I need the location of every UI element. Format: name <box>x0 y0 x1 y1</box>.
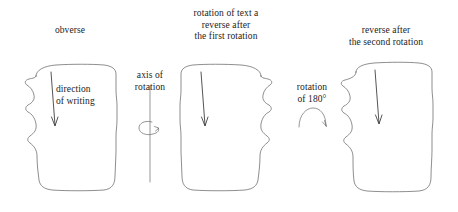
label-rotation-180: rotation of 180° <box>290 82 334 105</box>
heading-obverse: obverse <box>28 25 112 37</box>
axis-of-rotation-icon <box>139 86 159 182</box>
figure-canvas: obverse rotation of text a reverse after… <box>0 0 458 212</box>
heading-first-rotation: rotation of text a reverse after the fir… <box>156 8 296 43</box>
rotation-180-icon <box>299 108 327 127</box>
second-reverse-tablet-outline <box>341 62 433 192</box>
label-axis-of-rotation: axis of rotation <box>126 70 174 93</box>
first-reverse-arrow <box>201 72 208 126</box>
label-direction-of-writing: direction of writing <box>56 84 122 107</box>
heading-second-rotation: reverse after the second rotation <box>320 25 452 48</box>
first-reverse-tablet-outline <box>180 64 272 191</box>
second-reverse-arrow <box>375 70 382 124</box>
